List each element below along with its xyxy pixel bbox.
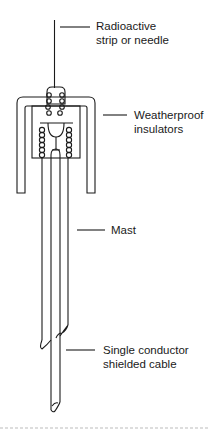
cable-end: [51, 402, 60, 412]
label-mast: Mast: [111, 223, 136, 237]
label-cable: Single conductor shielded cable: [103, 343, 189, 371]
mast-break: [41, 325, 69, 349]
mast: [42, 149, 68, 340]
label-insulators: Weatherproof insulators: [134, 108, 203, 136]
coil-left: [39, 127, 44, 157]
insulator-cap: [47, 87, 65, 104]
coil-right: [66, 127, 71, 157]
u-connector: [48, 123, 64, 137]
label-radioactive: Radioactive strip or needle: [96, 19, 169, 47]
